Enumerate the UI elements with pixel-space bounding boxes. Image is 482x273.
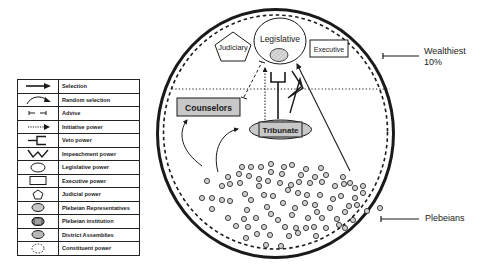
judiciary-label: Judiciary	[218, 43, 248, 52]
legend-label: District Assemblies	[59, 228, 140, 242]
legend-label: Advise	[59, 107, 140, 121]
advise-dashed-line	[244, 62, 262, 97]
legend-row: Impeachment power	[18, 147, 140, 161]
plebeian-representatives-hatched-ellipse	[270, 49, 288, 62]
legend-row: Judicial power	[18, 188, 140, 202]
executive-rectangle-icon	[23, 175, 53, 186]
selection-arrow-icon	[23, 81, 53, 91]
tribunate-label: Tribunate	[262, 126, 299, 135]
legislative-label: Legislative	[260, 34, 300, 44]
wealthiest-label-line2: 10%	[424, 57, 466, 68]
veto-fork-icon	[23, 135, 53, 146]
legend-row: Veto power	[18, 134, 140, 148]
legend-label: Executive power	[59, 174, 140, 188]
plebeians-label: Plebeians	[425, 213, 465, 224]
wealthiest-label: Wealthiest 10%	[424, 46, 466, 68]
impeachment-zigzag-icon	[23, 148, 53, 159]
legend-row: Plebeian Representatives	[18, 201, 140, 215]
legend-label: Initiative power	[59, 120, 140, 134]
district-assemblies-dots	[199, 161, 382, 248]
judiciary-node: Judiciary	[215, 32, 251, 61]
legend-row: Random selection	[18, 93, 140, 107]
legend-label: Random selection	[59, 93, 140, 107]
legend-label: Impeachment power	[59, 147, 140, 161]
selection-arrow	[297, 64, 350, 171]
legend-label: Legislative power	[59, 161, 140, 175]
legend-label: Selection	[59, 80, 140, 94]
district-assemblies-icon	[23, 229, 53, 240]
legend-row: Constituent power	[18, 242, 140, 256]
random-selection-curved-arrow-icon	[23, 94, 53, 105]
impeachment-zigzag	[288, 71, 303, 113]
legend-label: Constituent power	[59, 242, 140, 256]
random-selection-arrow-tribunate	[216, 129, 238, 172]
advise-bracket-icon	[23, 108, 53, 118]
legend-row: Legislative power	[18, 161, 140, 175]
random-selection-arrow-counselors	[182, 120, 202, 166]
legend-row: Plebeian institution	[18, 215, 140, 229]
legend-row: Advise	[18, 107, 140, 121]
counselors-node: Counselors	[177, 98, 240, 116]
legend-label: Plebeian institution	[59, 215, 140, 229]
legislative-node: Legislative	[254, 18, 306, 64]
tribunate-node: Tribunate	[250, 120, 312, 139]
wealthiest-label-line1: Wealthiest	[424, 46, 466, 57]
veto-fork-icon	[271, 72, 285, 119]
legend-row: Initiative power	[18, 120, 140, 134]
initiative-dotted-arrow-icon	[23, 122, 53, 132]
advise-end-tick-bottom	[241, 97, 247, 99]
executive-node: Executive	[310, 40, 348, 57]
counselors-label: Counselors	[185, 103, 232, 113]
executive-label: Executive	[314, 46, 344, 53]
legend-row: Selection	[18, 80, 140, 94]
legend-row: District Assemblies	[18, 228, 140, 242]
legend-label: Judicial power	[59, 188, 140, 202]
legislative-ellipse-icon	[23, 162, 53, 173]
legend-row: Executive power	[18, 174, 140, 188]
judicial-pentagon-icon	[23, 189, 53, 200]
legend-table: Selection Random selection Advise Initia…	[17, 79, 140, 256]
plebeians-label-text: Plebeians	[425, 213, 465, 224]
legend-label: Veto power	[59, 134, 140, 148]
constituent-power-dashed-circle-icon	[23, 243, 53, 254]
legend-label: Plebeian Representatives	[59, 201, 140, 215]
plebeian-institution-icon	[23, 216, 53, 227]
plebeian-representatives-icon	[23, 202, 53, 213]
